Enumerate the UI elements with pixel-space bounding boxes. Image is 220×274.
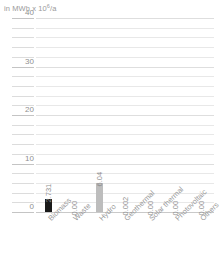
y-axis-tick-mark bbox=[12, 37, 34, 38]
y-axis-tick-mark bbox=[12, 134, 34, 135]
y-axis-tick-mark bbox=[12, 115, 34, 116]
bar-chart: in MWh x 106/a 010203040 2.7310.006.040.… bbox=[0, 0, 220, 274]
y-axis-tick-mark bbox=[12, 76, 34, 77]
y-axis-tick-mark bbox=[12, 193, 34, 194]
y-axis-tick-mark bbox=[12, 67, 34, 68]
y-axis-tick-mark bbox=[12, 28, 34, 29]
y-axis-tick-mark bbox=[12, 125, 34, 126]
unit-caption-suffix: /a bbox=[50, 4, 56, 13]
y-axis-tick-mark bbox=[12, 144, 34, 145]
y-axis-tick-mark bbox=[12, 47, 34, 48]
y-axis-tick-label: 0 bbox=[12, 203, 34, 211]
bar-value-label: 6.04 bbox=[96, 172, 104, 187]
y-axis-tick-mark bbox=[12, 173, 34, 174]
y-axis-tick-label: 30 bbox=[12, 58, 34, 66]
bar-value-label: 2.731 bbox=[45, 183, 53, 202]
y-axis-tick-label: 20 bbox=[12, 106, 34, 114]
x-axis-category-labels: BiomassWasteHydroGeothermalSolar thermal… bbox=[36, 213, 214, 274]
y-axis-tick-mark bbox=[12, 96, 34, 97]
y-axis-tick-mark bbox=[12, 86, 34, 87]
y-axis-tick-label: 10 bbox=[12, 155, 34, 163]
y-axis-tick-label: 40 bbox=[12, 9, 34, 17]
y-axis-tick-mark bbox=[12, 183, 34, 184]
plot-area: 2.7310.006.040.0020.000.000.00 bbox=[36, 18, 214, 212]
bar bbox=[96, 183, 103, 212]
y-axis-tick-mark bbox=[12, 18, 34, 19]
y-axis-tick-mark bbox=[12, 164, 34, 165]
y-axis-tick-mark bbox=[12, 212, 34, 213]
